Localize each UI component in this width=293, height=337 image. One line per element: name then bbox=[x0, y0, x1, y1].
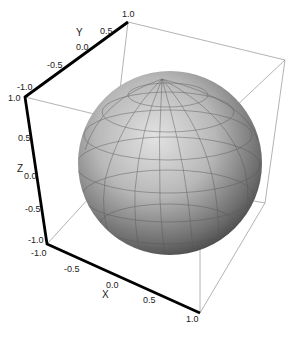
z-axis-title: Z bbox=[17, 163, 23, 174]
y-axis-labels: Y -1.0 -0.5 0.0 0.5 1.0 bbox=[17, 9, 135, 92]
svg-text:0.5: 0.5 bbox=[18, 133, 31, 143]
svg-text:0.0: 0.0 bbox=[76, 42, 89, 52]
svg-text:0.5: 0.5 bbox=[143, 295, 156, 305]
svg-text:-0.5: -0.5 bbox=[47, 60, 63, 70]
y-axis-title: Y bbox=[76, 27, 83, 38]
svg-text:-1.0: -1.0 bbox=[28, 235, 44, 245]
svg-text:-0.5: -0.5 bbox=[64, 264, 80, 274]
svg-text:-0.5: -0.5 bbox=[25, 204, 41, 214]
svg-text:-1.0: -1.0 bbox=[31, 248, 47, 258]
sphere-surface bbox=[76, 71, 262, 256]
svg-text:0.0: 0.0 bbox=[24, 171, 37, 181]
x-axis-title: X bbox=[102, 289, 109, 300]
x-axis-labels: X -1.0 -0.5 0.0 0.5 1.0 bbox=[31, 248, 199, 324]
sphere-3d-plot: Y -1.0 -0.5 0.0 0.5 1.0 Z 1.0 0.5 0.0 -0… bbox=[0, 0, 293, 337]
svg-text:-1.0: -1.0 bbox=[17, 82, 33, 92]
svg-text:0.5: 0.5 bbox=[100, 26, 113, 36]
svg-text:1.0: 1.0 bbox=[8, 93, 21, 103]
svg-text:0.0: 0.0 bbox=[106, 280, 119, 290]
z-axis-labels: Z 1.0 0.5 0.0 -0.5 -1.0 bbox=[8, 93, 44, 245]
svg-text:1.0: 1.0 bbox=[186, 314, 199, 324]
svg-text:1.0: 1.0 bbox=[122, 9, 135, 19]
